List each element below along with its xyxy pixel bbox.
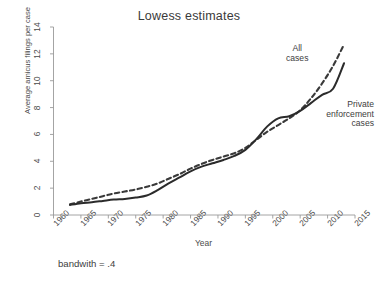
annotation-private-line3: cases <box>286 119 374 129</box>
plot-area <box>0 0 378 293</box>
annotation-private-enforcement-cases: Private enforcement cases <box>286 100 374 129</box>
x-tick-marks <box>54 215 356 219</box>
annotation-all-cases: All cases <box>286 44 308 63</box>
chart-canvas: Lowess estimates Average amicus filings … <box>0 0 378 293</box>
annotation-all-cases-line2: cases <box>286 54 308 64</box>
series-line-private-enforcement-cases <box>70 63 344 205</box>
y-tick-marks <box>50 27 54 215</box>
